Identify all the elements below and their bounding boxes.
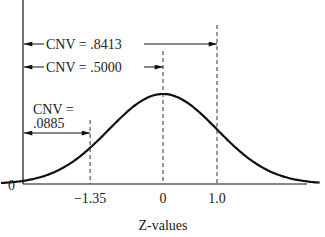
tick-label-neg-1-35: −1.35: [74, 191, 106, 206]
tick-label-0: 0: [160, 191, 167, 206]
annotation-cnv-0885-line2: .0885: [33, 116, 65, 131]
y-zero-label: 0: [8, 178, 15, 193]
tick-label-1-0: 1.0: [208, 191, 226, 206]
x-axis-label: Z-values: [139, 218, 188, 233]
annotation-cnv-0885-line1: CNV =: [33, 102, 74, 117]
normal-curve-diagram: 0 −1.35 0 1.0 Z-values CNV = .8413 CNV =…: [0, 0, 325, 237]
annotation-cnv-8413: CNV = .8413: [46, 37, 122, 52]
annotation-cnv-5000: CNV = .5000: [46, 60, 122, 75]
